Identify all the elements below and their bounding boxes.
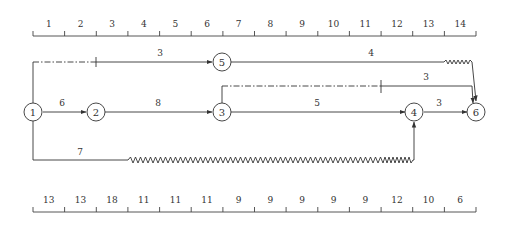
top-scale-label: 4 [141,19,147,29]
top-scale-label: 13 [423,19,435,29]
top-scale-label: 2 [78,19,84,29]
duration-label-2-3: 8 [155,98,161,108]
resource-label: 13 [75,195,87,205]
resource-label: 9 [236,195,242,205]
duration-label-3-4: 5 [314,98,320,108]
activity-1-5 [33,57,212,103]
top-scale-label: 10 [328,19,340,29]
top-scale-labels: 1 2 3 4 5 6 7 8 9 10 11 12 13 14 [46,19,466,29]
top-scale-label: 14 [454,19,466,29]
resource-label: 11 [170,195,181,205]
node-label: 2 [93,107,99,118]
resource-label: 10 [423,195,435,205]
bottom-scale-labels: 13 13 18 11 11 11 9 9 9 9 9 12 10 6 [43,195,463,205]
node-label: 1 [30,107,36,118]
node-6: 6 [467,103,485,121]
resource-label: 11 [138,195,149,205]
resource-label: 6 [457,195,463,205]
resource-label: 18 [106,195,118,205]
top-scale-label: 9 [299,19,305,29]
resource-label: 9 [362,195,368,205]
node-label: 4 [411,107,417,118]
top-scale-label: 12 [391,19,402,29]
node-3: 3 [213,103,231,121]
activity-1-4 [33,121,414,163]
top-scale-label: 3 [109,19,115,29]
top-scale-label: 5 [173,19,179,29]
bottom-resource-scale [33,207,476,212]
activity-5-6 [231,60,476,101]
node-2: 2 [87,103,105,121]
duration-label-1-5: 3 [157,48,163,58]
node-1: 1 [24,103,42,121]
resource-label: 13 [43,195,55,205]
top-scale-label: 1 [46,19,52,29]
node-4: 4 [405,103,423,121]
duration-label-1-4: 7 [77,147,83,157]
network-diagram: 1 2 3 4 5 6 7 8 9 10 11 12 13 14 13 13 1 [0,0,505,229]
resource-label: 11 [201,195,212,205]
resource-label: 9 [267,195,273,205]
top-scale-label: 7 [236,19,242,29]
top-scale-label: 11 [360,19,371,29]
node-5: 5 [213,53,231,71]
duration-label-5-6: 4 [368,48,374,58]
duration-label-3-6: 3 [423,72,429,82]
duration-label-4-6: 3 [436,98,442,108]
duration-label-1-2: 6 [59,98,65,108]
node-label: 6 [473,107,479,118]
node-label: 5 [219,57,225,68]
resource-label: 9 [331,195,337,205]
resource-label: 12 [391,195,402,205]
resource-label: 9 [299,195,305,205]
top-scale-label: 6 [204,19,210,29]
node-label: 3 [219,107,225,118]
top-scale-label: 8 [267,19,273,29]
top-time-scale [33,31,476,36]
